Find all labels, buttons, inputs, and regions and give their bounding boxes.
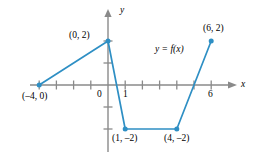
y-axis-arrowhead bbox=[104, 9, 111, 17]
x-tick-label-6: 6 bbox=[208, 90, 213, 100]
x-tick-label-1: 1 bbox=[123, 90, 128, 100]
point-marker-neg4-0 bbox=[37, 83, 42, 88]
point-marker-1-neg2 bbox=[123, 127, 128, 132]
point-label-0-2: (0, 2) bbox=[69, 31, 90, 41]
point-marker-0-2 bbox=[106, 39, 111, 44]
x-axis-label: x bbox=[241, 80, 245, 90]
function-label: y = f(x) bbox=[155, 45, 184, 55]
point-label-4-neg2: (4, –2) bbox=[164, 134, 189, 144]
point-marker-6-2 bbox=[209, 39, 214, 44]
x-axis-arrowhead bbox=[228, 81, 237, 88]
point-label-1-neg2: (1, –2) bbox=[112, 134, 137, 144]
point-marker-4-neg2 bbox=[174, 127, 179, 132]
y-axis-label: y bbox=[120, 6, 124, 16]
point-label-6-2: (6, 2) bbox=[203, 24, 224, 34]
graph-figure: y x (0, 2) (–4, 0) (1, –2) (4, –2) (6, 2… bbox=[0, 0, 256, 163]
point-label-neg4-0: (–4, 0) bbox=[22, 92, 47, 102]
x-tick-label-0: 0 bbox=[97, 90, 102, 100]
